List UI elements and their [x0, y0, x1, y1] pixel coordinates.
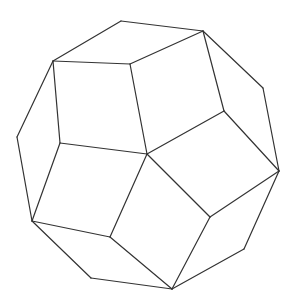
polyhedron-wireframe [0, 0, 296, 305]
edge-H-I [17, 137, 32, 221]
edge-B-L [203, 31, 224, 111]
edge-L-M [147, 111, 224, 154]
edge-K-M [130, 64, 147, 154]
polyhedron-figure [0, 0, 296, 305]
edge-H-O [32, 221, 110, 237]
edge-O-M [110, 154, 147, 237]
edge-O-F [110, 237, 172, 289]
edge-L-D [224, 111, 279, 171]
edge-J-K [53, 61, 130, 64]
edge-G-H [32, 221, 91, 278]
edge-I-J [17, 61, 53, 137]
edge-F-G [91, 278, 172, 289]
edge-B-C [203, 31, 263, 88]
edge-N-M [60, 143, 147, 154]
edge-N-H [32, 143, 60, 221]
edge-K-B [130, 31, 203, 64]
edge-J-A [53, 21, 121, 61]
edge-A-B [121, 21, 203, 31]
edge-M-P [147, 154, 210, 217]
edge-C-D [263, 88, 279, 171]
edge-J-N [53, 61, 60, 143]
